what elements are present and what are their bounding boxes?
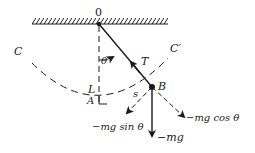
arc-right-label: C′ [170, 42, 181, 55]
theta-label: θ [101, 55, 107, 66]
pendulum-diagram: 0 θ T L A B s C C′ −mg −mg sin θ −mg cos… [0, 0, 255, 153]
tangential-force-arrow [127, 87, 152, 113]
tension-arrow [131, 62, 140, 73]
weight-label: −mg [157, 131, 184, 144]
arc-left-label: C [14, 45, 23, 58]
pivot-label: 0 [95, 6, 102, 19]
tangential-force-label: −mg sin θ [92, 121, 143, 132]
tension-label: T [141, 55, 150, 68]
radial-force-label: −mg cos θ [186, 112, 239, 123]
lowest-point-label: A [86, 95, 94, 106]
radial-force-arrow [152, 87, 184, 117]
bob-label: B [157, 80, 166, 93]
arc-length-label: s [133, 88, 138, 99]
right-angle-mark [99, 96, 107, 104]
pivot-point [97, 22, 101, 26]
